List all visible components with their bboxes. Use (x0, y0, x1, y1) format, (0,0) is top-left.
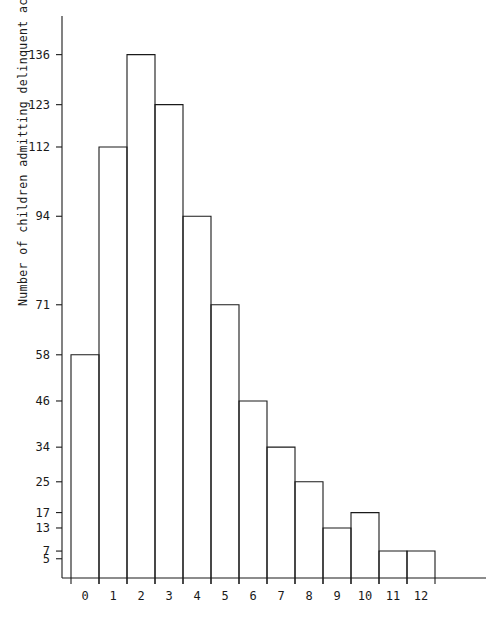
histogram-chart: Number of children admitting delinquent … (0, 0, 486, 620)
bar (267, 447, 295, 578)
bar (155, 105, 183, 578)
plot-area (0, 0, 486, 620)
bar (295, 482, 323, 578)
bar (351, 513, 379, 578)
bar (99, 147, 127, 578)
bar (379, 551, 407, 578)
bar (323, 528, 351, 578)
bar (183, 216, 211, 578)
bar (407, 551, 435, 578)
bar (71, 355, 99, 578)
bar (211, 305, 239, 578)
axes-group (56, 16, 486, 584)
bars-group (71, 55, 486, 578)
bar (127, 55, 155, 578)
bar (239, 401, 267, 578)
